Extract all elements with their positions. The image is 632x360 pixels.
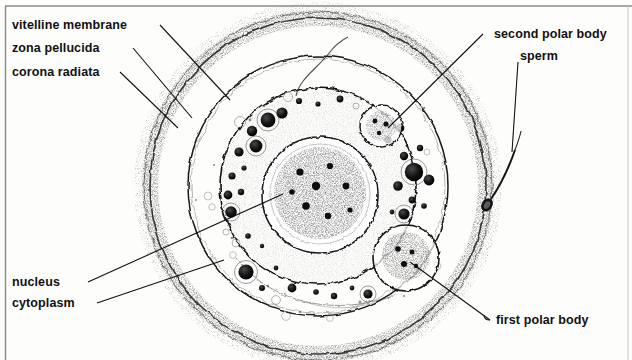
label-nucleus: nucleus	[12, 276, 60, 289]
figure-canvas: vitelline membrane zona pellucida corona…	[0, 0, 632, 360]
label-sperm: sperm	[520, 50, 558, 63]
label-zona-pellucida: zona pellucida	[12, 42, 100, 55]
label-second-polar-body: second polar body	[494, 28, 607, 41]
label-vitelline-membrane: vitelline membrane	[12, 19, 127, 32]
label-corona-radiata: corona radiata	[12, 66, 100, 79]
label-cytoplasm: cytoplasm	[12, 297, 75, 310]
nucleus-layer	[262, 137, 378, 253]
second-polar-body	[360, 105, 402, 147]
first-polar-body	[373, 225, 439, 291]
label-first-polar-body: first polar body	[496, 314, 589, 327]
